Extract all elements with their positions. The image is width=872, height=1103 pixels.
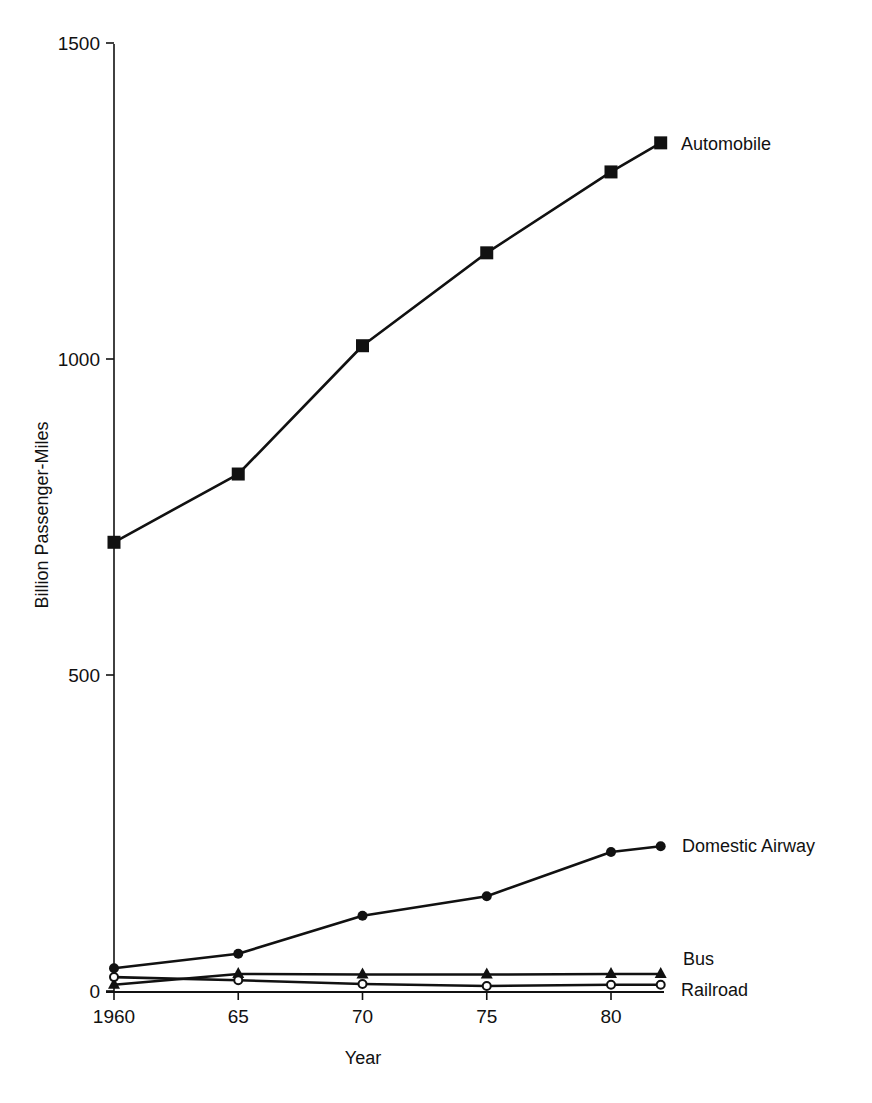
open-circle-marker (234, 976, 242, 984)
y-tick-label: 1000 (58, 349, 100, 370)
circle-marker (233, 949, 243, 959)
open-circle-marker (483, 982, 491, 990)
open-circle-marker (359, 980, 367, 988)
circle-marker (606, 847, 616, 857)
series-automobile (108, 136, 668, 548)
railroad-line (114, 977, 661, 986)
square-marker (654, 136, 667, 149)
axes (106, 44, 664, 992)
triangle-marker (655, 967, 667, 978)
triangle-marker (357, 968, 369, 979)
open-circle-marker (607, 981, 615, 989)
x-ticks: 196065707580 (93, 992, 622, 1027)
triangle-marker (481, 968, 493, 979)
square-marker (605, 165, 618, 178)
x-tick-label: 75 (476, 1006, 497, 1027)
square-marker (356, 339, 369, 352)
x-tick-label: 80 (600, 1006, 621, 1027)
open-circle-marker (657, 981, 665, 989)
series-label-automobile: Automobile (681, 134, 771, 154)
y-axis-title: Billion Passenger-Miles (32, 421, 52, 608)
triangle-marker (605, 967, 617, 978)
y-tick-label: 500 (68, 665, 100, 686)
circle-marker (109, 963, 119, 973)
y-tick-label: 0 (89, 981, 100, 1002)
series-domestic-airway (109, 841, 666, 973)
circle-marker (482, 891, 492, 901)
series-group (108, 136, 668, 990)
domestic-airway-line (114, 846, 661, 968)
x-axis-title: Year (345, 1048, 381, 1068)
square-marker (108, 536, 121, 549)
circle-marker (358, 911, 368, 921)
circle-marker (656, 841, 666, 851)
x-tick-label: 70 (352, 1006, 373, 1027)
y-ticks: 050010001500 (58, 33, 114, 1002)
square-marker (480, 246, 493, 259)
square-marker (232, 468, 245, 481)
x-tick-label: 65 (228, 1006, 249, 1027)
series-label-domestic-airway: Domestic Airway (682, 836, 815, 856)
automobile-line (114, 143, 661, 542)
series-label-railroad: Railroad (681, 980, 748, 1000)
line-chart: 050010001500 196065707580 Billion Passen… (0, 0, 872, 1103)
x-tick-label: 1960 (93, 1006, 135, 1027)
y-tick-label: 1500 (58, 33, 100, 54)
series-label-bus: Bus (683, 949, 714, 969)
series-labels: AutomobileDomestic AirwayBusRailroad (681, 134, 815, 1000)
open-circle-marker (110, 973, 118, 981)
